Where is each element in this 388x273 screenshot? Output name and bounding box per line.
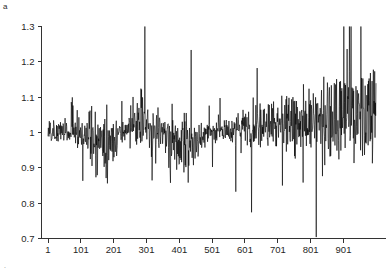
chart-page: a . 0.70.80.911.11.21.3 1101201301401501… — [0, 0, 388, 273]
x-tick-label: 201 — [106, 244, 122, 255]
y-axis-tick-labels: 0.70.80.911.11.21.3 — [21, 21, 34, 244]
x-tick-label: 101 — [73, 244, 89, 255]
data-series-group — [48, 27, 376, 238]
x-tick-label: 901 — [336, 244, 352, 255]
x-axis-ticks — [48, 239, 343, 243]
x-tick-label: 501 — [204, 244, 220, 255]
x-tick-label: 301 — [139, 244, 155, 255]
y-tick-label: 1.2 — [21, 56, 34, 67]
x-tick-label: 401 — [171, 244, 187, 255]
x-tick-label: 601 — [237, 244, 253, 255]
y-tick-label: 1.3 — [21, 21, 34, 32]
chart-canvas: 0.70.80.911.11.21.3 11012013014015016017… — [0, 0, 388, 273]
y-tick-label: 1 — [29, 127, 34, 138]
line-chart: 0.70.80.911.11.21.3 11012013014015016017… — [0, 0, 388, 273]
x-tick-label: 701 — [270, 244, 286, 255]
x-axis-tick-labels: 1101201301401501601701801901 — [45, 244, 351, 255]
y-tick-label: 0.7 — [21, 233, 34, 244]
y-axis-ticks — [38, 27, 42, 239]
x-tick-label: 801 — [303, 244, 319, 255]
x-tick-label: 1 — [45, 244, 50, 255]
y-tick-label: 1.1 — [21, 92, 34, 103]
series-line — [48, 27, 376, 238]
y-tick-label: 0.8 — [21, 198, 34, 209]
y-tick-label: 0.9 — [21, 162, 34, 173]
